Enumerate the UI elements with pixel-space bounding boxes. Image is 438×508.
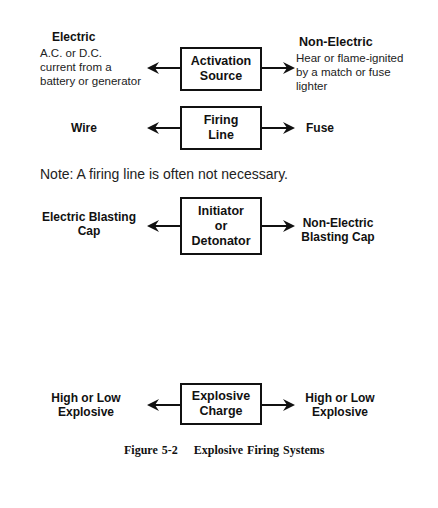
activation-source-box: Activation Source bbox=[180, 47, 262, 91]
wire-label: Wire bbox=[71, 121, 97, 135]
right-explosive-type-label: High or Low Explosive bbox=[298, 391, 382, 419]
figure-caption: Figure 5-2 Explosive Firing Systems bbox=[124, 443, 324, 458]
electric-label: Electric bbox=[52, 30, 95, 44]
left-arrow-icon bbox=[147, 220, 180, 232]
right-arrow-icon bbox=[262, 122, 295, 134]
electric-description: A.C. or D.C. current from a battery or g… bbox=[40, 46, 141, 88]
right-arrow-icon bbox=[262, 220, 295, 232]
left-arrow-icon bbox=[147, 62, 180, 74]
right-arrow-icon bbox=[262, 399, 295, 411]
electric-blasting-cap-label: Electric Blasting Cap bbox=[34, 210, 144, 238]
non-electric-label: Non-Electric bbox=[299, 35, 373, 49]
left-arrow-icon bbox=[147, 122, 180, 134]
firing-line-box: Firing Line bbox=[180, 106, 262, 150]
note-text: Note: A firing line is often not necessa… bbox=[40, 166, 288, 182]
explosive-charge-box: Explosive Charge bbox=[180, 383, 262, 425]
initiator-detonator-box: Initiator or Detonator bbox=[180, 197, 262, 255]
right-arrow-icon bbox=[262, 62, 295, 74]
left-explosive-type-label: High or Low Explosive bbox=[44, 391, 128, 419]
fuse-label: Fuse bbox=[306, 121, 334, 135]
non-electric-description: Hear or flame-ignited by a match or fuse… bbox=[296, 51, 403, 93]
left-arrow-icon bbox=[147, 399, 180, 411]
non-electric-blasting-cap-label: Non-Electric Blasting Cap bbox=[296, 216, 380, 244]
